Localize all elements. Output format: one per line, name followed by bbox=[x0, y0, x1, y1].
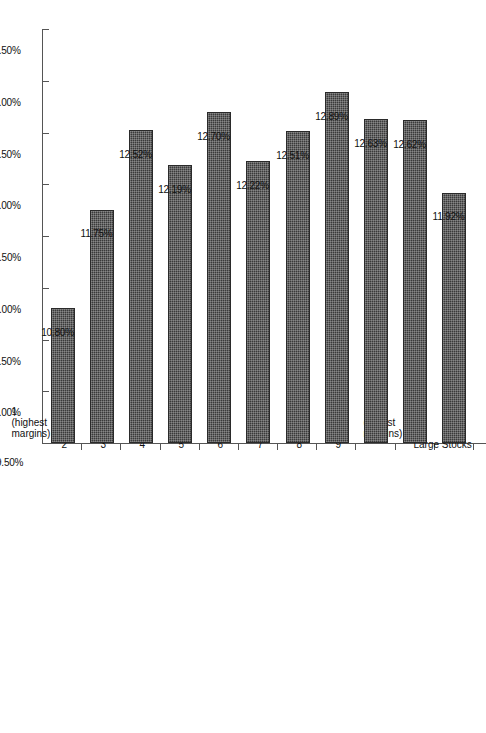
axis-tick-label: 11.00% bbox=[5, 304, 37, 315]
bar bbox=[90, 210, 114, 443]
axis-tick bbox=[42, 443, 49, 444]
axis-tick-label: 11.50% bbox=[5, 252, 37, 263]
axis-tick-label: 12.50% bbox=[4, 149, 37, 160]
axis-tick-label-text: 13.00% bbox=[0, 97, 21, 108]
bar bbox=[442, 193, 466, 443]
axis-tick-label: 10.50% bbox=[4, 356, 37, 367]
axis-tick bbox=[42, 236, 49, 237]
axis-tick-label-text: 12.50% bbox=[0, 149, 21, 160]
axis-tick-label-text: 9.50% bbox=[0, 457, 23, 468]
axis-tick-label: 13.50% bbox=[4, 45, 37, 56]
chart-stage: 13.50%13.00%12.50%12.00%11.50%11.00%10.5… bbox=[0, 0, 486, 733]
bar bbox=[207, 112, 231, 443]
bar bbox=[364, 119, 388, 443]
bar-value-label: 11.75% bbox=[80, 228, 112, 239]
bar-value-label: 12.63% bbox=[354, 138, 387, 149]
bar-value-label: 11.92% bbox=[433, 211, 465, 222]
bar-value-label: 12.89% bbox=[315, 111, 348, 122]
axis-tick bbox=[42, 133, 49, 134]
axis-tick bbox=[42, 391, 49, 392]
bar-value-label: 12.62% bbox=[393, 139, 426, 150]
axis-tick-label-text: 13.50% bbox=[0, 45, 21, 56]
bar bbox=[129, 130, 153, 443]
axis-tick bbox=[42, 288, 49, 289]
axis-tick-label-text: 11.50% bbox=[0, 252, 21, 263]
bar bbox=[168, 165, 192, 443]
axis-tick bbox=[42, 29, 49, 30]
axis-tick bbox=[42, 184, 49, 185]
bar bbox=[286, 131, 310, 443]
bar bbox=[247, 161, 271, 443]
bar-value-label: 12.22% bbox=[237, 180, 270, 191]
bar-value-label: 12.70% bbox=[197, 131, 230, 142]
bar-value-label: 12.52% bbox=[119, 149, 152, 160]
chart-page: 13.50%13.00%12.50%12.00%11.50%11.00%10.5… bbox=[0, 0, 486, 733]
axis-tick-label: 13.00% bbox=[4, 97, 37, 108]
axis-tick-label-text: 12.00% bbox=[0, 201, 21, 212]
plot-area: 13.50%13.00%12.50%12.00%11.50%11.00%10.5… bbox=[0, 0, 486, 733]
axis-tick bbox=[42, 81, 49, 82]
bar bbox=[325, 92, 349, 443]
axis-tick-label-text: 11.00% bbox=[0, 304, 21, 315]
bar-value-label: 10.80% bbox=[41, 327, 74, 338]
axis-tick bbox=[42, 340, 49, 341]
axis-tick-label-text: 10.50% bbox=[0, 356, 21, 367]
bar-value-label: 12.19% bbox=[158, 183, 191, 194]
axis-tick-label: 12.00% bbox=[4, 201, 37, 212]
axis-tick-label: 9.50% bbox=[10, 457, 37, 468]
bar-value-label: 12.51% bbox=[276, 150, 309, 161]
bar bbox=[403, 120, 427, 443]
